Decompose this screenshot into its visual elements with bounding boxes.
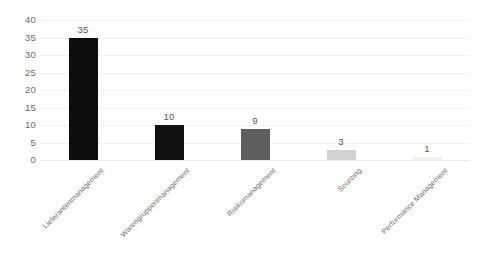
bar-value-label: 1 <box>397 144 457 154</box>
gridline <box>40 20 470 21</box>
bar <box>327 150 356 161</box>
x-category-label: Lieferantenmanagement <box>41 166 106 231</box>
gridline <box>40 108 470 109</box>
gridline <box>40 160 470 161</box>
y-tick-label: 0 <box>6 155 36 165</box>
y-tick-label: 35 <box>6 33 36 43</box>
x-category-label: Sourcing <box>336 166 364 194</box>
plot-area <box>40 20 470 160</box>
bar <box>241 129 270 161</box>
gridline <box>40 73 470 74</box>
y-tick-label: 10 <box>6 120 36 130</box>
bar-value-label: 3 <box>311 137 371 147</box>
y-tick-label: 20 <box>6 85 36 95</box>
bar <box>155 125 184 160</box>
bar-value-label: 10 <box>139 112 199 122</box>
y-tick-label: 40 <box>6 15 36 25</box>
gridline <box>40 55 470 56</box>
bar <box>69 38 98 161</box>
y-tick-label: 30 <box>6 50 36 60</box>
x-category-label: Risikomanagement <box>225 166 277 218</box>
gridline <box>40 90 470 91</box>
bar-value-label: 9 <box>225 116 285 126</box>
y-axis: 0510152025303540 <box>0 20 36 160</box>
gridline <box>40 38 470 39</box>
y-tick-label: 15 <box>6 103 36 113</box>
bar <box>413 157 442 161</box>
y-tick-label: 5 <box>6 138 36 148</box>
bar-value-label: 35 <box>53 25 113 35</box>
x-category-label: Performance Management <box>380 166 450 236</box>
y-tick-label: 25 <box>6 68 36 78</box>
bar-chart: 0510152025303540 3510931 Lieferantenmana… <box>0 0 481 261</box>
x-category-label: Warengruppenmanagement <box>119 166 192 239</box>
